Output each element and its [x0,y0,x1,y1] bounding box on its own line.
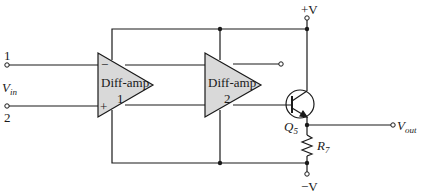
amp2-name: Diff-amp [208,76,256,89]
vin-main: V [2,80,10,95]
input-terminal-1 [5,63,9,67]
output-terminal [391,123,395,127]
vout-sub: out [405,125,417,135]
amp2-number: 2 [224,92,231,105]
positive-supply-label: +V [301,3,318,16]
circuit-diagram: 1 2 Vin Diff-amp 1 − + Diff-amp 2 +V −V … [0,0,421,195]
input-terminal-2 [5,104,9,108]
negative-supply-label: −V [301,180,318,193]
amp1-name: Diff-amp [101,76,149,89]
vout-label: Vout [397,119,416,135]
amp1-plus: + [100,100,107,113]
amp1-minus: − [101,58,108,71]
amp1-number: 1 [117,92,124,105]
transistor-main: Q [284,119,293,134]
vin-label: Vin [2,81,17,97]
resistor-sub: 7 [325,145,330,155]
vin-sub: in [10,87,17,97]
resistor-label: R7 [317,139,329,155]
transistor-q5-symbol [286,90,314,118]
negative-supply-terminal [305,172,309,176]
transistor-sub: 5 [293,126,298,136]
vout-main: V [397,118,405,133]
resistor-main: R [317,138,325,153]
terminal-2-label: 2 [4,111,11,124]
transistor-label: Q5 [284,120,298,136]
schematic-wires [0,0,421,195]
amp2-aux-terminal [279,62,283,66]
terminal-1-label: 1 [4,49,11,62]
